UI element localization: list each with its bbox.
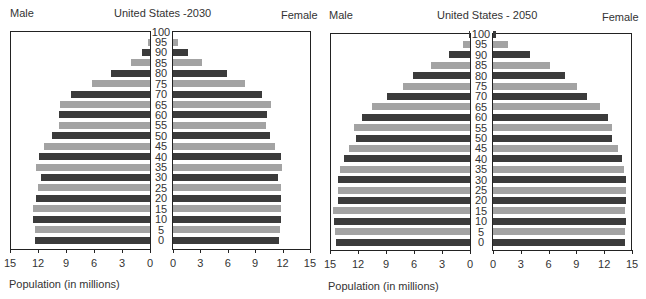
female-bar-age-45 (173, 143, 275, 150)
male-bar-age-50 (356, 135, 470, 142)
age-label: 30 (470, 175, 492, 185)
age-label: 85 (150, 58, 172, 68)
female-tick-mark (310, 249, 311, 253)
age-label: 50 (470, 133, 492, 143)
age-label: 75 (150, 79, 172, 89)
female-bar-age-5 (173, 226, 280, 233)
male-bar-age-70 (387, 93, 470, 100)
male-bar-age-55 (59, 122, 150, 129)
male-bar-age-90 (449, 51, 470, 58)
male-bar-age-80 (413, 72, 470, 79)
female-tick-label: 12 (273, 257, 293, 269)
male-bar-age-70 (71, 91, 150, 98)
female-bar-age-75 (493, 83, 577, 90)
female-bar-age-75 (173, 80, 245, 87)
female-bar-age-95 (493, 41, 508, 48)
female-bar-age-50 (493, 135, 612, 142)
male-tick-mark (150, 249, 151, 253)
age-label: 95 (150, 37, 172, 47)
male-bar-age-40 (39, 153, 150, 160)
age-label: 90 (470, 50, 492, 60)
male-tick-label: 0 (460, 258, 480, 270)
female-bar-age-90 (493, 51, 530, 58)
female-tick-mark (521, 250, 522, 254)
male-bar-age-75 (403, 83, 470, 90)
female-bar-age-15 (173, 205, 281, 212)
female-bar-age-65 (493, 103, 600, 110)
female-bar-age-20 (493, 197, 626, 204)
male-bar-age-25 (38, 184, 150, 191)
male-tick-label: 12 (348, 258, 368, 270)
female-tick-mark (200, 249, 201, 253)
female-tick-mark (173, 249, 174, 253)
male-tick-label: 15 (320, 258, 340, 270)
male-bar-age-20 (36, 195, 150, 202)
chart-title: United States - 2050 (437, 9, 537, 21)
age-label: 40 (470, 154, 492, 164)
age-label: 25 (470, 185, 492, 195)
female-bar-age-60 (493, 114, 608, 121)
female-tick-label: 9 (566, 258, 586, 270)
female-bar-age-55 (493, 124, 612, 131)
chart-title: United States -2030 (114, 7, 211, 19)
male-bar-age-20 (338, 197, 470, 204)
female-tick-label: 3 (190, 257, 210, 269)
age-label: 20 (150, 193, 172, 203)
age-label: 30 (150, 172, 172, 182)
female-bar-age-0 (493, 239, 625, 246)
male-tick-mark (38, 249, 39, 253)
female-tick-label: 9 (245, 257, 265, 269)
male-tick-label: 12 (28, 257, 48, 269)
male-bar-age-80 (111, 70, 150, 77)
x-axis-label: Population (in millions) (328, 280, 439, 292)
male-bar-age-10 (334, 218, 470, 225)
female-bar-age-60 (173, 111, 267, 118)
age-label: 0 (150, 235, 172, 245)
female-bar-age-95 (173, 39, 178, 46)
female-tick-label: 15 (300, 257, 320, 269)
pyramid-2030: Male United States -2030 Female 05101520… (0, 0, 323, 299)
age-label: 65 (150, 100, 172, 110)
age-label: 5 (470, 227, 492, 237)
female-tick-label: 12 (594, 258, 614, 270)
male-tick-mark (330, 250, 331, 254)
male-bar-age-5 (335, 228, 470, 235)
male-bar-age-5 (35, 226, 150, 233)
male-tick-label: 3 (432, 258, 452, 270)
male-bar-age-65 (60, 101, 150, 108)
male-bar-age-85 (431, 62, 470, 69)
male-bar-age-0 (336, 239, 470, 246)
male-bar-age-55 (354, 124, 470, 131)
female-bar-age-70 (173, 91, 262, 98)
female-bar-age-25 (173, 184, 281, 191)
male-tick-label: 15 (0, 257, 20, 269)
male-tick-mark (386, 250, 387, 254)
male-bar-age-25 (338, 187, 470, 194)
female-bar-age-35 (493, 166, 624, 173)
female-bar-age-70 (493, 93, 587, 100)
pyramid-2050: Male United States - 2050 Female 0510152… (320, 0, 643, 299)
female-tick-label: 0 (163, 257, 183, 269)
female-bar-age-65 (173, 101, 271, 108)
male-tick-mark (122, 249, 123, 253)
female-tick-label: 6 (218, 257, 238, 269)
age-label: 100 (150, 27, 172, 37)
male-bar-age-15 (333, 207, 470, 214)
age-label: 15 (150, 204, 172, 214)
age-label: 70 (470, 91, 492, 101)
age-label: 40 (150, 152, 172, 162)
age-label: 95 (470, 39, 492, 49)
male-bar-age-45 (349, 145, 470, 152)
male-bar-age-30 (41, 174, 150, 181)
female-bar-age-90 (173, 49, 188, 56)
male-bar-age-45 (44, 143, 150, 150)
female-bar-age-80 (173, 70, 227, 77)
male-tick-mark (66, 249, 67, 253)
male-bar-age-95 (463, 41, 470, 48)
age-label: 55 (470, 123, 492, 133)
male-bar-age-60 (362, 114, 470, 121)
female-label: Female (602, 11, 639, 23)
male-tick-label: 9 (56, 257, 76, 269)
female-bar-age-80 (493, 72, 565, 79)
male-tick-label: 9 (376, 258, 396, 270)
